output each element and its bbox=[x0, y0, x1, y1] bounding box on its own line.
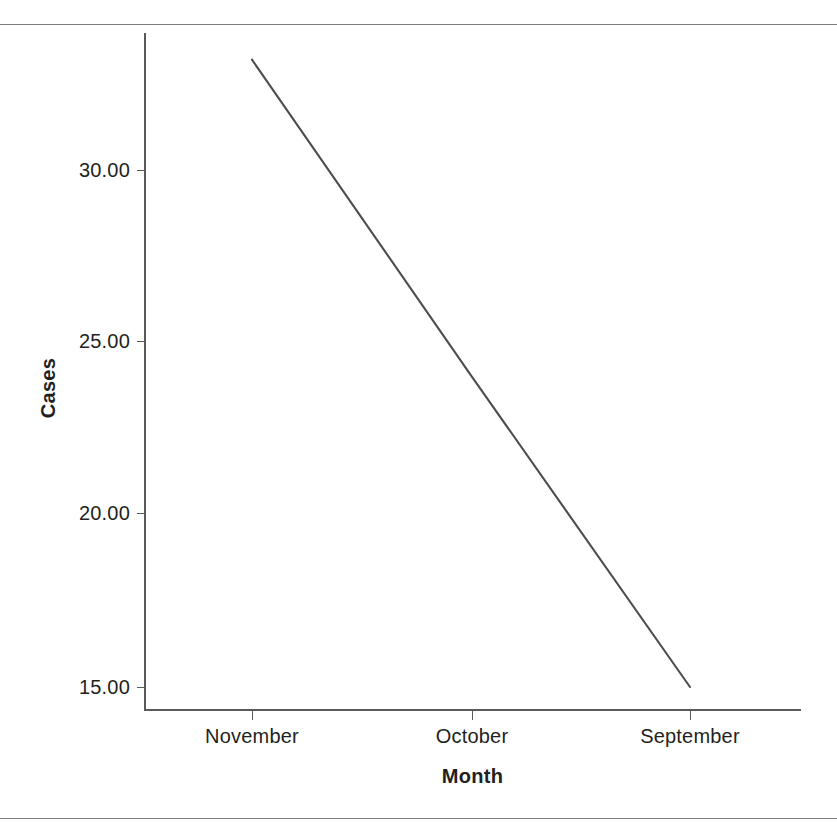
y-axis-line bbox=[144, 33, 146, 711]
series-line-cases bbox=[0, 0, 837, 829]
x-axis-tick-october bbox=[472, 711, 473, 720]
y-axis-tick-30 bbox=[137, 170, 145, 171]
y-axis-label-15: 15.00 bbox=[40, 677, 130, 697]
y-axis-title: Cases bbox=[37, 358, 60, 418]
y-axis-tick-25 bbox=[137, 341, 145, 342]
x-axis-title: Month bbox=[145, 765, 800, 788]
y-axis-tick-15 bbox=[137, 687, 145, 688]
y-axis-label-25: 25.00 bbox=[40, 331, 130, 351]
x-axis-line bbox=[145, 709, 801, 711]
x-axis-label-november: November bbox=[132, 726, 372, 746]
page-rule-top bbox=[0, 24, 837, 25]
x-axis-label-october: October bbox=[352, 726, 592, 746]
x-axis-label-september: September bbox=[570, 726, 810, 746]
x-axis-tick-september bbox=[690, 711, 691, 720]
y-axis-label-30: 30.00 bbox=[40, 160, 130, 180]
chart-figure: 30.00 25.00 20.00 15.00 November October… bbox=[0, 0, 837, 829]
y-axis-tick-20 bbox=[137, 513, 145, 514]
x-axis-tick-november bbox=[252, 711, 253, 720]
page-rule-bottom bbox=[0, 818, 837, 819]
y-axis-label-20: 20.00 bbox=[40, 503, 130, 523]
